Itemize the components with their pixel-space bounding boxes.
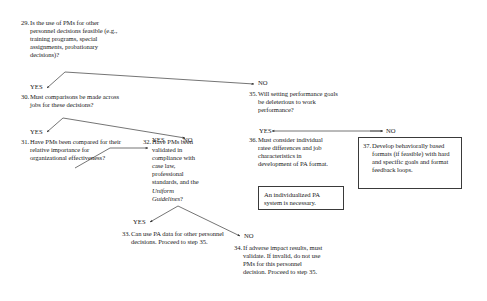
node-37-text: Develop behaviorally based formats (if f… <box>363 142 456 174</box>
label-35-yes: YES <box>259 127 272 135</box>
edge-30-yes <box>47 118 63 132</box>
node-33-text: Can use PA data for other personnel deci… <box>122 230 232 246</box>
label-29-no: NO <box>258 79 268 87</box>
label-30-yes: YES <box>30 128 43 136</box>
note-individualized-pa-box: An individualized PA system is necessary… <box>258 186 344 210</box>
label-30-no: NO <box>183 136 193 144</box>
node-35-text: Will setting performance goals be delete… <box>249 90 339 114</box>
node-32: 32. Have PMs been validated in complianc… <box>143 138 203 203</box>
flowchart-canvas: 29. Is the use of PMs for other personne… <box>0 0 487 301</box>
label-29-yes: YES <box>30 83 43 91</box>
node-33-number: 33. <box>122 230 130 238</box>
node-35-number: 35. <box>249 90 257 98</box>
label-35-no: NO <box>386 127 396 135</box>
node-37-box: 37. Develop behaviorally based formats (… <box>358 137 462 189</box>
node-36: 36. Must consider individual ratee diffe… <box>249 136 333 168</box>
note-individualized-pa-text: An individualized PA system is necessary… <box>264 191 339 207</box>
node-31: 31. Have PMs been compared for their rel… <box>21 138 124 162</box>
edge-32-yes <box>150 206 178 222</box>
edge-29-no <box>65 72 254 84</box>
edge-30-no <box>63 118 185 138</box>
node-32-text-part2: ? <box>180 195 183 202</box>
node-32-text-part1: Have PMs been validated in compliance wi… <box>152 138 199 185</box>
edge-29-yes <box>47 72 65 88</box>
label-32-yes: YES <box>133 218 146 226</box>
node-30: 30. Must comparisons be made across jobs… <box>21 93 129 109</box>
node-31-text: Have PMs been compared for their relativ… <box>21 138 124 162</box>
node-29-text: Is the use of PMs for other personnel de… <box>21 19 125 59</box>
node-33: 33. Can use PA data for other personnel … <box>122 230 232 246</box>
node-34: 34. If adverse impact results, must vali… <box>234 244 326 276</box>
label-32-no: NO <box>244 232 254 240</box>
node-35: 35. Will setting performance goals be de… <box>249 90 339 114</box>
node-30-text: Must comparisons be made across jobs for… <box>21 93 129 109</box>
node-36-number: 36. <box>249 136 257 144</box>
node-36-text: Must consider individual ratee differenc… <box>249 136 333 168</box>
node-31-number: 31. <box>21 138 29 146</box>
node-34-text: If adverse impact results, must validate… <box>234 244 326 276</box>
node-29-number: 29. <box>21 19 29 27</box>
node-32-number: 32. <box>143 138 151 146</box>
node-32-text-italic: Uniform Guidelines <box>152 187 180 202</box>
node-30-number: 30. <box>21 93 29 101</box>
node-37-number: 37. <box>363 142 371 150</box>
node-32-text: Have PMs been validated in compliance wi… <box>143 138 203 203</box>
label-31-yes: YES <box>152 136 165 144</box>
node-34-number: 34. <box>234 244 242 252</box>
node-29: 29. Is the use of PMs for other personne… <box>21 19 125 59</box>
